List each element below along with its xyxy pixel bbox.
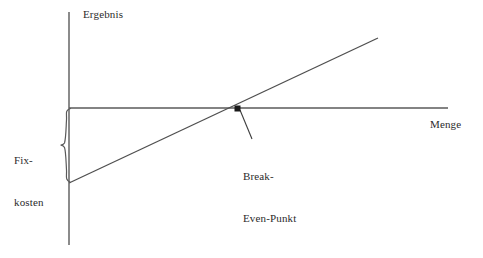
fixed-costs-label-line-1: Fix- <box>14 153 44 167</box>
x-axis-label: Menge <box>430 118 461 131</box>
diagram-canvas <box>0 0 483 258</box>
break-even-diagram: Ergebnis Menge Fix- kosten Break- Even-P… <box>0 0 483 258</box>
break-even-point-marker <box>235 106 241 112</box>
fixed-costs-label-line-2: kosten <box>14 195 44 209</box>
fixed-costs-label: Fix- kosten <box>14 125 44 237</box>
break-even-label-line-2: Even-Punkt <box>243 211 296 225</box>
break-even-label: Break- Even-Punkt <box>243 141 296 253</box>
break-even-label-line-1: Break- <box>243 169 296 183</box>
y-axis-label: Ergebnis <box>83 8 123 21</box>
result-line <box>69 38 378 183</box>
break-even-leader-line <box>240 110 252 139</box>
